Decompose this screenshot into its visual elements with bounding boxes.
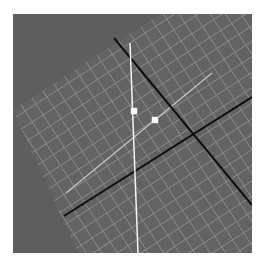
scene-canvas[interactable] <box>13 14 252 253</box>
viewport-frame <box>0 0 267 258</box>
3d-viewport[interactable] <box>13 14 252 253</box>
handle-top[interactable] <box>131 108 137 114</box>
handle-right[interactable] <box>152 117 158 123</box>
